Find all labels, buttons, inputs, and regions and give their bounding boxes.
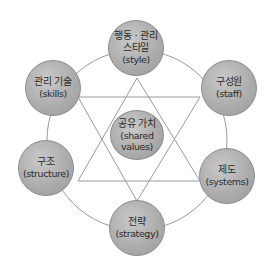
node-systems-ko: 제도 xyxy=(218,164,235,176)
node-strategy-en: (strategy) xyxy=(115,228,158,239)
node-staff-ko: 구성원 xyxy=(216,76,242,88)
node-structure-en: (structure) xyxy=(23,168,69,179)
node-systems-en: (systems) xyxy=(205,176,248,187)
node-shared-values: 공유 가치 (shared values) xyxy=(110,110,164,160)
node-strategy: 전략 (strategy) xyxy=(109,200,165,256)
node-skills-ko: 관리 기술 xyxy=(34,76,72,88)
node-structure-ko: 구조 xyxy=(37,156,54,168)
node-structure: 구조 (structure) xyxy=(18,140,74,196)
node-shared-values-ko: 공유 가치 xyxy=(118,118,156,130)
node-skills-en: (skills) xyxy=(39,88,67,99)
node-style-en: (style) xyxy=(122,54,149,65)
node-systems: 제도 (systems) xyxy=(199,148,255,204)
node-style: 행동 · 관리 스타일 (style) xyxy=(108,20,164,76)
node-staff: 구성원 (staff) xyxy=(201,60,257,116)
node-shared-values-en-line2: values) xyxy=(121,141,153,152)
node-staff-en: (staff) xyxy=(216,88,242,99)
node-strategy-ko: 전략 xyxy=(128,216,145,228)
node-style-ko-line1: 행동 · 관리 xyxy=(114,30,157,42)
node-shared-values-en-line1: (shared xyxy=(120,130,153,141)
node-skills: 관리 기술 (skills) xyxy=(25,60,81,116)
node-style-ko-line2: 스타일 xyxy=(123,42,149,54)
